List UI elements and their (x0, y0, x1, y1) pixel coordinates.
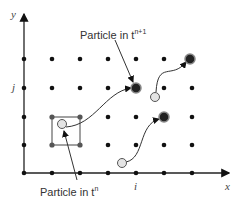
x-axis-label: x (225, 181, 230, 192)
leader-next (115, 40, 133, 82)
label-particle-next: Particle in tn+1 (80, 28, 146, 41)
cell-corner-nodes (49, 114, 82, 147)
particle-current-3 (118, 159, 127, 168)
y-axis-label: y (11, 9, 16, 20)
trajectory-3 (126, 119, 159, 162)
y-tick-j: j (12, 82, 15, 93)
label-particle-current: Particle in tn (40, 185, 98, 198)
particle-current-2 (151, 93, 160, 102)
particle-next-1 (131, 83, 141, 93)
trajectory-2 (156, 62, 186, 92)
x-tick-i: i (134, 181, 137, 192)
particle-next-2 (185, 54, 195, 64)
particle-current-1 (58, 120, 67, 129)
trajectory-1 (66, 88, 131, 127)
particle-next-3 (159, 112, 169, 122)
